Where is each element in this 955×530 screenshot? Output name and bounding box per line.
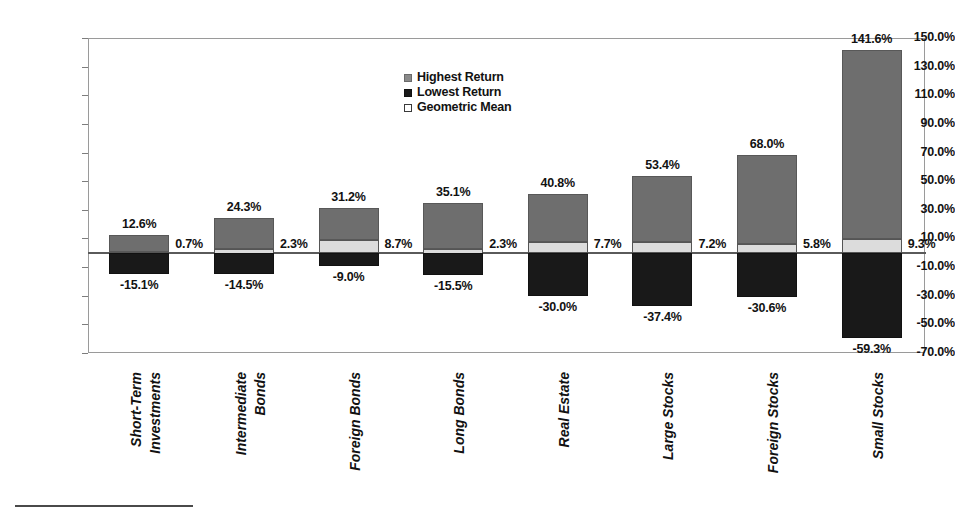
x-axis-category-label: Foreign Bonds bbox=[347, 372, 363, 471]
y-axis-tick-mark bbox=[82, 124, 88, 125]
y-axis-tick-mark bbox=[82, 267, 88, 268]
x-axis-category-label: Investments bbox=[147, 372, 163, 454]
x-axis-category-label: Small Stocks bbox=[870, 372, 886, 459]
bar-segment-lowest-return[interactable] bbox=[737, 253, 797, 297]
value-label-lowest-return: -30.0% bbox=[513, 300, 603, 314]
value-label-highest-return: 31.2% bbox=[304, 190, 394, 204]
value-label-highest-return: 40.8% bbox=[513, 176, 603, 190]
bar-segment-lowest-return[interactable] bbox=[214, 253, 274, 274]
bar-segment-highest-return[interactable] bbox=[423, 203, 483, 250]
x-axis-category-label: Short-Term bbox=[128, 372, 144, 447]
y-axis-tick-mark bbox=[82, 296, 88, 297]
value-label-lowest-return: -15.5% bbox=[408, 279, 498, 293]
legend-item-highest-return[interactable]: Highest Return bbox=[404, 70, 511, 85]
bar-segment-lowest-return[interactable] bbox=[319, 253, 379, 266]
bar-segment-highest-return[interactable] bbox=[528, 194, 588, 241]
value-label-highest-return: 35.1% bbox=[408, 185, 498, 199]
value-label-lowest-return: -9.0% bbox=[304, 270, 394, 284]
chart-canvas: 150.0%130.0%110.0%90.0%70.0%50.0%30.0%10… bbox=[0, 0, 955, 530]
value-label-geometric-mean: 7.2% bbox=[698, 237, 726, 251]
value-label-highest-return: 141.6% bbox=[827, 32, 917, 46]
value-label-geometric-mean: 2.3% bbox=[280, 237, 308, 251]
bar-segment-lowest-return[interactable] bbox=[842, 253, 902, 338]
bar-segment-geometric-mean[interactable] bbox=[842, 239, 902, 252]
black-swatch-icon bbox=[404, 89, 412, 97]
bottom-divider-rule bbox=[15, 505, 193, 507]
gray-swatch-icon bbox=[404, 74, 412, 82]
bar-segment-highest-return[interactable] bbox=[214, 218, 274, 250]
value-label-geometric-mean: 2.3% bbox=[489, 237, 517, 251]
value-label-lowest-return: -30.6% bbox=[722, 301, 812, 315]
bar-segment-geometric-mean[interactable] bbox=[528, 242, 588, 253]
value-label-geometric-mean: 5.8% bbox=[803, 237, 831, 251]
y-axis-tick-mark bbox=[82, 38, 88, 39]
legend-label-highest-return: Highest Return bbox=[417, 70, 504, 85]
bar-segment-lowest-return[interactable] bbox=[423, 253, 483, 275]
legend-label-geometric-mean: Geometric Mean bbox=[417, 100, 511, 115]
bar-segment-highest-return[interactable] bbox=[109, 235, 169, 252]
x-axis-category-label: Large Stocks bbox=[660, 372, 676, 460]
bar-segment-highest-return[interactable] bbox=[737, 155, 797, 244]
value-label-highest-return: 53.4% bbox=[617, 158, 707, 172]
y-axis-tick-mark bbox=[82, 353, 88, 354]
y-axis-tick-mark bbox=[82, 67, 88, 68]
y-axis-tick-mark bbox=[82, 153, 88, 154]
legend-label-lowest-return: Lowest Return bbox=[417, 85, 501, 100]
y-axis-tick-mark bbox=[82, 324, 88, 325]
value-label-highest-return: 12.6% bbox=[94, 217, 184, 231]
y-axis-tick-mark bbox=[82, 95, 88, 96]
legend-item-lowest-return[interactable]: Lowest Return bbox=[404, 85, 511, 100]
legend-item-geometric-mean[interactable]: Geometric Mean bbox=[404, 100, 511, 115]
bar-segment-lowest-return[interactable] bbox=[632, 253, 692, 307]
bar-segment-geometric-mean[interactable] bbox=[319, 240, 379, 252]
x-axis-category-label: Bonds bbox=[252, 372, 268, 416]
value-label-lowest-return: -15.1% bbox=[94, 278, 184, 292]
bar-segment-geometric-mean[interactable] bbox=[632, 242, 692, 252]
x-axis-category-label: Intermediate bbox=[233, 372, 249, 455]
value-label-highest-return: 24.3% bbox=[199, 200, 289, 214]
value-label-geometric-mean: 0.7% bbox=[175, 237, 203, 251]
bar-segment-geometric-mean[interactable] bbox=[737, 244, 797, 252]
value-label-highest-return: 68.0% bbox=[722, 137, 812, 151]
y-axis-tick-mark bbox=[82, 181, 88, 182]
value-label-lowest-return: -14.5% bbox=[199, 278, 289, 292]
chart-legend: Highest Return Lowest Return Geometric M… bbox=[404, 70, 511, 115]
value-label-lowest-return: -37.4% bbox=[617, 310, 707, 324]
bar-segment-highest-return[interactable] bbox=[842, 50, 902, 239]
value-label-geometric-mean: 8.7% bbox=[385, 237, 413, 251]
x-axis-category-label: Long Bonds bbox=[451, 372, 467, 454]
bar-segment-lowest-return[interactable] bbox=[528, 253, 588, 296]
bar-segment-highest-return[interactable] bbox=[319, 208, 379, 240]
x-axis-category-label: Foreign Stocks bbox=[765, 372, 781, 473]
value-label-geometric-mean: 7.7% bbox=[594, 237, 622, 251]
white-swatch-icon bbox=[404, 104, 412, 112]
x-axis-category-label: Real Estate bbox=[556, 372, 572, 447]
value-label-lowest-return: -59.3% bbox=[827, 342, 917, 356]
bar-segment-highest-return[interactable] bbox=[632, 176, 692, 242]
value-label-geometric-mean: 9.3% bbox=[908, 237, 936, 251]
bar-segment-lowest-return[interactable] bbox=[109, 253, 169, 275]
y-axis-tick-mark bbox=[82, 238, 88, 239]
y-axis-tick-mark bbox=[82, 210, 88, 211]
